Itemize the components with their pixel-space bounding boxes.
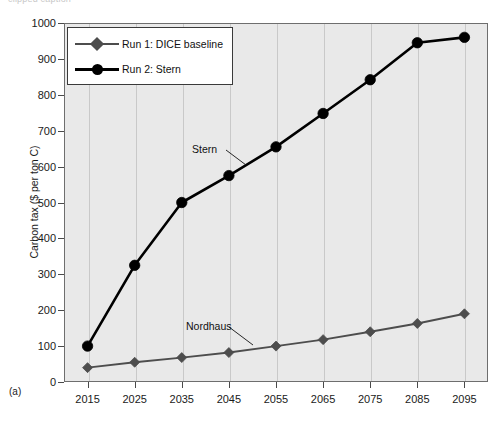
legend-label-stern: Run 2: Stern: [122, 63, 181, 75]
y-axis-tick-label: 500: [8, 197, 56, 209]
legend-entry-dice: Run 1: DICE baseline: [68, 32, 232, 56]
figure-container: clipped caption Carbon tax ($ per ton C)…: [0, 0, 504, 424]
legend-diamond-marker-icon: [90, 37, 104, 51]
clipped-top-caption: clipped caption: [0, 0, 504, 7]
x-axis-tick: [276, 382, 277, 388]
legend-swatch-circle-icon: [75, 60, 119, 78]
gridline-vertical: [371, 24, 372, 381]
y-axis-tick-label: 900: [8, 53, 56, 65]
y-axis-tick-label: 1000: [8, 17, 56, 29]
x-axis-tick: [370, 382, 371, 388]
y-axis-tick: [58, 59, 64, 60]
annotation-stern: Stern: [192, 143, 217, 155]
y-axis-tick: [58, 95, 64, 96]
y-axis-tick-label: 300: [8, 268, 56, 280]
x-axis-tick: [88, 382, 89, 388]
y-axis-tick: [58, 310, 64, 311]
y-axis-tick: [58, 167, 64, 168]
y-axis-tick-label: 400: [8, 232, 56, 244]
legend-circle-marker-icon: [92, 64, 103, 75]
legend: Run 1: DICE baseline Run 2: Stern: [67, 27, 233, 85]
y-axis-labels: 01002003004005006007008009001000: [0, 0, 56, 424]
gridline-vertical: [324, 24, 325, 381]
gridline-vertical: [418, 24, 419, 381]
y-axis-tick: [58, 23, 64, 24]
y-axis-tick-label: 200: [8, 304, 56, 316]
y-axis-tick: [58, 203, 64, 204]
x-axis-tick: [417, 382, 418, 388]
legend-entry-stern: Run 2: Stern: [68, 57, 232, 81]
y-axis-tick-label: 100: [8, 340, 56, 352]
gridline-vertical: [465, 24, 466, 381]
legend-label-dice: Run 1: DICE baseline: [122, 38, 223, 50]
x-axis-tick: [182, 382, 183, 388]
x-axis-tick: [323, 382, 324, 388]
legend-swatch-diamond-icon: [75, 35, 119, 53]
x-axis-tick: [229, 382, 230, 388]
y-axis-tick-label: 600: [8, 161, 56, 173]
y-axis-tick: [58, 382, 64, 383]
y-axis-tick: [58, 274, 64, 275]
y-axis-tick-label: 0: [8, 376, 56, 388]
y-axis-tick-label: 800: [8, 89, 56, 101]
x-axis-tick: [135, 382, 136, 388]
x-axis-tick: [464, 382, 465, 388]
y-axis-tick: [58, 238, 64, 239]
y-axis-tick-label: 700: [8, 125, 56, 137]
annotation-nordhaus: Nordhaus: [186, 320, 232, 332]
y-axis-tick: [58, 131, 64, 132]
x-axis-tick-label: 2095: [434, 393, 494, 405]
y-axis-tick: [58, 346, 64, 347]
gridline-vertical: [277, 24, 278, 381]
